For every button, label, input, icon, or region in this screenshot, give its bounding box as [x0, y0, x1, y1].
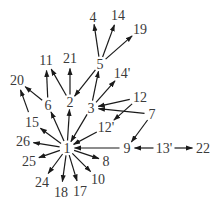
edge-1-to-10: [72, 153, 90, 171]
edge-5-to-2: [75, 70, 96, 96]
node-label-11: 11: [39, 53, 52, 68]
node-label-9: 9: [124, 141, 131, 156]
edge-3-to-5: [93, 71, 99, 100]
node-label-5: 5: [97, 57, 104, 72]
edge-6-to-20: [25, 87, 42, 101]
edge-1-to-6: [51, 112, 64, 141]
edge-12-to-3: [98, 99, 130, 106]
node-label-4: 4: [90, 10, 97, 25]
node-label-26: 26: [16, 134, 30, 149]
edge-1-to-18: [62, 155, 66, 181]
node-label-22: 22: [196, 141, 210, 156]
node-label-1: 1: [64, 141, 71, 156]
node-label-8: 8: [103, 154, 110, 169]
edge-1-to-2: [68, 110, 70, 141]
node-label-12: 12: [133, 90, 147, 105]
edge-1-to-8: [74, 150, 99, 158]
node-label-21: 21: [63, 51, 77, 66]
node-label-6: 6: [45, 98, 52, 113]
node-label-24: 24: [35, 175, 49, 190]
edge-1-to-24: [48, 154, 62, 174]
node-label-7: 7: [149, 107, 156, 122]
edge-1-to-26: [33, 143, 59, 147]
node-label-3: 3: [88, 101, 95, 116]
node-label-14: 14: [111, 8, 125, 23]
directed-graph-diagram: 12345678910111212'13'1414'15171819202122…: [0, 0, 218, 208]
node-label-15: 15: [25, 115, 39, 130]
node-label-12p: 12': [98, 120, 115, 135]
node-label-25: 25: [22, 154, 36, 169]
edge-6-to-11: [47, 71, 48, 98]
edge-1-to-25: [39, 150, 60, 157]
edge-1-to-15: [40, 128, 61, 143]
node-label-17: 17: [73, 184, 87, 199]
edge-2-to-11: [51, 69, 66, 95]
edge-3-to-1: [71, 114, 87, 141]
node-label-10: 10: [91, 172, 105, 187]
node-label-19: 19: [133, 22, 147, 37]
edge-3-to-14p: [96, 81, 115, 103]
node-label-20: 20: [10, 73, 24, 88]
edge-15-to-20: [21, 90, 29, 112]
edge-7-to-9: [131, 120, 147, 142]
edge-1-to-17: [69, 155, 77, 181]
node-label-2: 2: [67, 95, 74, 110]
node-label-18: 18: [54, 185, 68, 200]
edge-5-to-4: [94, 24, 99, 56]
edge-12p-to-1: [74, 132, 97, 144]
node-label-13p: 13': [156, 141, 173, 156]
node-label-14p: 14': [114, 66, 131, 81]
